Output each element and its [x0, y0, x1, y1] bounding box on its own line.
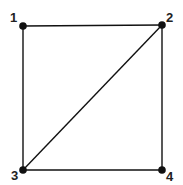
- edges-group: [23, 25, 162, 170]
- node-label-2: 2: [166, 10, 173, 25]
- node-4: [158, 166, 166, 174]
- node-3: [19, 166, 27, 174]
- node-label-1: 1: [10, 10, 17, 25]
- edge-3-2: [23, 25, 162, 170]
- edge-1-2: [23, 25, 162, 26]
- node-1: [19, 22, 27, 30]
- node-label-3: 3: [11, 168, 18, 183]
- graph-diagram: 1 2 3 4: [0, 0, 183, 185]
- node-2: [158, 21, 166, 29]
- node-label-4: 4: [166, 169, 174, 184]
